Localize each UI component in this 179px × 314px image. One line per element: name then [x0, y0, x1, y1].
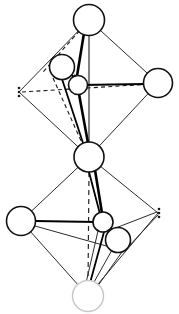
vertex-dot-a: [18, 87, 21, 90]
vertex-dot-f: [158, 216, 161, 219]
figure-root: [0, 0, 179, 314]
apex-top-atom: [74, 5, 105, 36]
implied-vertex-right-lower: [158, 208, 161, 219]
equatorial-right-upper-atom: [144, 69, 173, 98]
octahedra-diagram: [0, 0, 179, 314]
edge-inner-cation-rightvtx: [113, 212, 157, 229]
vertex-dot-e: [158, 212, 161, 215]
implied-vertex-left-upper: [18, 87, 21, 98]
edge-outer-cation-rightvtx: [129, 215, 158, 246]
vertex-dot-c: [18, 95, 21, 98]
lower-octahedron: [7, 157, 161, 312]
shared-corner-atom: [74, 142, 104, 172]
bond-center-to-right: [81, 84, 145, 85]
vertex-dot-d: [158, 208, 161, 211]
equatorial-left-lower-atom: [7, 207, 36, 236]
lower-octahedron-outline: [21, 157, 158, 296]
displaced-cation-lower-outer: [106, 228, 131, 253]
upper-octahedron: [18, 5, 173, 158]
vertex-dot-b: [18, 91, 21, 94]
apex-bottom-atom: [73, 281, 104, 312]
displaced-cation-upper-outer: [50, 55, 75, 80]
displaced-cation-lower-inner: [93, 212, 113, 232]
displaced-cation-upper-inner: [69, 76, 88, 95]
bond-left-to-center: [35, 221, 96, 222]
bond-upper-cation-apextop: [77, 33, 84, 76]
upper-octahedron-front-edges: [81, 24, 145, 153]
